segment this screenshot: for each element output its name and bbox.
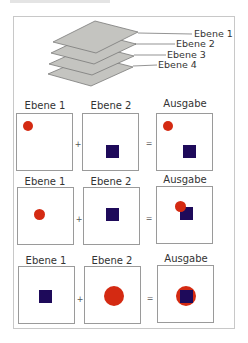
red-circle [34,209,45,220]
row1-layer1-box [16,113,73,171]
row3-label-layer2: Ebene 2 [82,255,142,266]
stack-label-2: Ebene 2 [176,39,215,49]
row3-label-output: Ausgabe [156,253,216,264]
plus-operator: + [74,141,82,149]
red-circle [163,121,173,131]
plus-operator: + [75,216,83,224]
row1-label-layer1: Ebene 1 [15,100,75,111]
leader-line-4 [133,65,157,66]
row1-label-layer2: Ebene 2 [81,100,141,111]
red-circle [175,201,186,212]
equals-operator: = [146,295,154,303]
row3-layer2-box [84,266,141,324]
row1-label-output: Ausgabe [155,98,215,109]
row3-layer1-box [18,266,75,324]
blue-square [106,145,119,158]
stack-label-4: Ebene 4 [158,60,197,70]
row1-output-box [156,113,213,171]
layer-stack-diagram [0,0,248,100]
blue-square [106,208,119,221]
red-circle [23,121,33,131]
blue-square [180,290,193,303]
row2-layer1-box [17,187,74,245]
plus-operator: + [76,296,84,304]
row1-layer2-box [82,113,139,171]
row2-label-output: Ausgabe [155,174,215,185]
equals-operator: = [145,140,153,148]
row2-output-box [156,186,213,244]
equals-operator: = [145,215,153,223]
row2-layer2-box [83,187,140,245]
red-circle-large [104,286,124,306]
row2-label-layer1: Ebene 1 [15,176,75,187]
leader-line-1 [138,33,192,34]
blue-square [39,290,52,303]
row3-output-box [157,265,214,323]
blue-square [183,145,196,158]
row2-label-layer2: Ebene 2 [81,176,141,187]
row3-label-layer1: Ebene 1 [16,255,76,266]
